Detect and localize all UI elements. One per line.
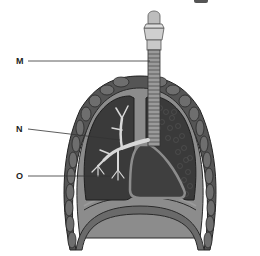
label-o: O bbox=[16, 172, 23, 181]
trachea bbox=[148, 50, 160, 146]
larynx bbox=[144, 11, 164, 50]
lung-diagram bbox=[0, 0, 260, 256]
label-m: M bbox=[16, 57, 24, 66]
label-n: N bbox=[16, 125, 23, 134]
